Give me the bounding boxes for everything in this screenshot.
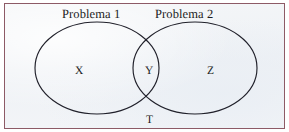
left-set-ellipse [35,22,159,114]
left-set-title: Problema 1 [62,8,120,21]
right-set-title: Problema 2 [155,8,213,21]
page-frame: Problema 1 Problema 2 X Y Z T [4,3,285,129]
venn-diagram-figure: Problema 1 Problema 2 X Y Z T [0,0,289,132]
region-label-t: T [146,115,153,127]
region-label-x: X [75,66,84,78]
region-label-y: Y [145,66,154,78]
region-label-z: Z [207,66,214,78]
